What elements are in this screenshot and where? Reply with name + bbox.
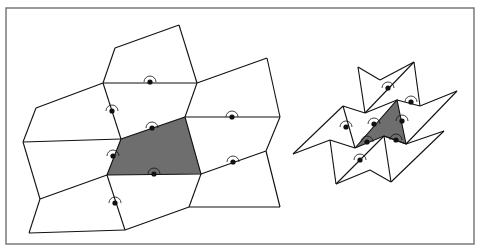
tile-edge [189,174,201,207]
tile-edge [23,108,36,142]
tile-edge [380,62,414,80]
tile-edge [370,170,391,182]
tile-edge [336,170,370,184]
tile-edge [185,83,197,117]
tile-edge [197,58,267,83]
tile-edge [103,48,115,83]
left-shaded-tile [107,117,201,175]
tile-edge [384,136,391,182]
tile-edge [179,25,197,83]
tile-edge [266,117,280,151]
tile-edge [36,83,103,108]
tiling-figure [0,0,480,251]
rotation-marker-icon [226,111,238,120]
tile-edge [267,58,280,117]
rotation-marker-icon [405,96,417,105]
rotation-marker-icon [382,82,394,91]
tile-edge [293,106,343,154]
rotation-marker-icon [354,154,366,163]
tile-edge [414,62,420,106]
rotation-marker-icon [340,121,352,130]
tile-edge [420,91,457,106]
tile-edge [330,140,355,148]
rotation-marker-icon [106,105,118,114]
tile-edge [358,67,365,113]
tile-edge [125,207,189,230]
tile-edge [29,199,40,233]
figure-frame [6,8,474,244]
tile-edge [23,139,121,142]
tile-edge [293,140,330,154]
tile-edge [343,106,365,113]
tile-edge [406,91,457,144]
tile-edge [115,25,179,48]
tile-edge [330,140,336,184]
right-tiling [293,62,457,184]
tile-edge [266,151,280,207]
left-tiling [23,25,280,233]
tile-edge [40,175,107,199]
tile-edge [358,67,380,80]
rotation-marker-icon [227,156,239,165]
tile-edge [23,142,40,199]
tile-edge [29,230,125,233]
